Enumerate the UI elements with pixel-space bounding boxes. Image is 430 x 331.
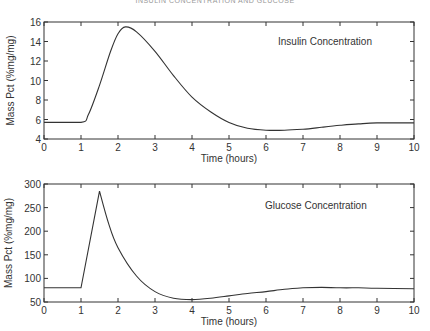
x-tick-label: 1: [78, 305, 84, 316]
glucose-annotation: Glucose Concentration: [265, 200, 367, 211]
x-tick-label: 4: [189, 305, 195, 316]
x-tick-label: 2: [115, 305, 121, 316]
y-tick-label: 150: [24, 250, 41, 261]
y-tick-label: 4: [35, 134, 41, 145]
glucose-y-axis-label: Mass Pct (%mg/mg): [3, 198, 14, 288]
y-tick-label: 6: [35, 115, 41, 126]
x-tick-label: 0: [41, 142, 47, 153]
charts-figure: 01234567891046810121416Time (hours)Mass …: [0, 0, 430, 331]
y-tick-label: 16: [30, 17, 42, 28]
x-tick-label: 6: [263, 305, 269, 316]
y-tick-label: 14: [30, 37, 42, 48]
x-tick-label: 5: [226, 142, 232, 153]
y-tick-label: 250: [24, 203, 41, 214]
y-tick-label: 8: [35, 95, 41, 106]
insulin-x-axis-label: Time (hours): [201, 153, 257, 164]
x-tick-label: 6: [263, 142, 269, 153]
x-tick-label: 3: [152, 305, 158, 316]
y-tick-label: 10: [30, 76, 42, 87]
x-tick-label: 10: [408, 305, 420, 316]
x-tick-label: 2: [115, 142, 121, 153]
insulin-annotation: Insulin Concentration: [278, 36, 372, 47]
x-tick-label: 1: [78, 142, 84, 153]
x-tick-label: 0: [41, 305, 47, 316]
x-tick-label: 9: [374, 305, 380, 316]
x-tick-label: 10: [408, 142, 420, 153]
y-tick-label: 100: [24, 273, 41, 284]
x-tick-label: 5: [226, 305, 232, 316]
y-tick-label: 300: [24, 179, 41, 190]
x-tick-label: 3: [152, 142, 158, 153]
x-tick-label: 8: [337, 142, 343, 153]
x-tick-label: 8: [337, 305, 343, 316]
x-tick-label: 4: [189, 142, 195, 153]
y-tick-label: 12: [30, 56, 42, 67]
x-tick-label: 9: [374, 142, 380, 153]
y-tick-label: 50: [30, 297, 42, 308]
insulin-y-axis-label: Mass Pct (%mg/mg): [5, 35, 16, 125]
y-tick-label: 200: [24, 226, 41, 237]
glucose-x-axis-label: Time (hours): [201, 316, 257, 327]
x-tick-label: 7: [300, 305, 306, 316]
x-tick-label: 7: [300, 142, 306, 153]
